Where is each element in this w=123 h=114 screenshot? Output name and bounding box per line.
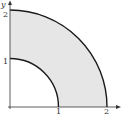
x-tick-2: 2 xyxy=(104,107,109,114)
y-axis-arrow-icon xyxy=(8,1,12,6)
shaded-region xyxy=(10,10,107,107)
y-tick-1: 1 xyxy=(3,57,8,66)
y-tick-2: 2 xyxy=(3,10,8,19)
x-axis-arrow-icon xyxy=(116,105,121,109)
quarter-annulus-diagram: y 2 1 1 2 xyxy=(0,0,123,114)
y-axis-label: y xyxy=(0,0,6,9)
x-tick-1: 1 xyxy=(56,107,61,114)
